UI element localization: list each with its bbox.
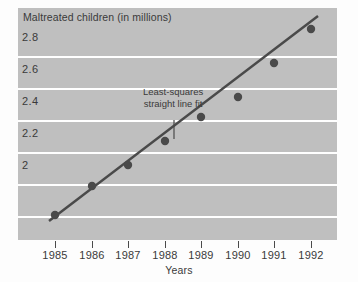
xtick-label-1990: 1990 <box>225 249 250 261</box>
data-point-1990 <box>234 93 242 101</box>
data-point-1986 <box>88 182 96 190</box>
data-point-1991 <box>270 59 278 67</box>
data-point-1989 <box>197 113 205 121</box>
data-point-1985 <box>51 211 59 219</box>
least-squares-fit-line <box>49 16 318 221</box>
ytick-label-2-4: 2.4 <box>22 95 39 107</box>
xaxis-title: Years <box>0 264 358 276</box>
xtick-mark-1988 <box>165 241 166 248</box>
xtick-mark-1989 <box>201 241 202 248</box>
xtick-mark-1986 <box>92 241 93 248</box>
data-point-1992 <box>307 25 315 33</box>
xtick-mark-1990 <box>238 241 239 248</box>
ytick-label-2-8: 2.8 <box>22 31 39 43</box>
annotation-line-1: Least-squares <box>143 86 203 98</box>
xtick-label-1992: 1992 <box>298 249 323 261</box>
xtick-mark-1985 <box>55 241 56 248</box>
xtick-mark-1992 <box>311 241 312 248</box>
ytick-label-2-0: 2 <box>22 159 29 171</box>
data-point-1987 <box>124 161 132 169</box>
xtick-mark-1987 <box>128 241 129 248</box>
page-title: Maltreated children (in millions) <box>23 11 172 23</box>
xtick-label-1991: 1991 <box>261 249 286 261</box>
xtick-label-1989: 1989 <box>188 249 213 261</box>
chart-figure: Least-squares straight line fit Maltreat… <box>0 0 358 282</box>
plot-graphics <box>18 8 337 240</box>
plot-panel: Least-squares straight line fit <box>18 8 337 240</box>
data-point-1988 <box>161 137 169 145</box>
xtick-label-1986: 1986 <box>79 249 104 261</box>
xtick-label-1985: 1985 <box>42 249 67 261</box>
xtick-mark-1991 <box>274 241 275 248</box>
annotation-least-squares: Least-squares straight line fit <box>143 86 203 109</box>
ytick-label-2-2: 2.2 <box>22 127 39 139</box>
annotation-line-2: straight line fit <box>143 98 203 110</box>
xtick-label-1987: 1987 <box>115 249 140 261</box>
xtick-label-1988: 1988 <box>152 249 177 261</box>
ytick-label-2-6: 2.6 <box>22 63 39 75</box>
